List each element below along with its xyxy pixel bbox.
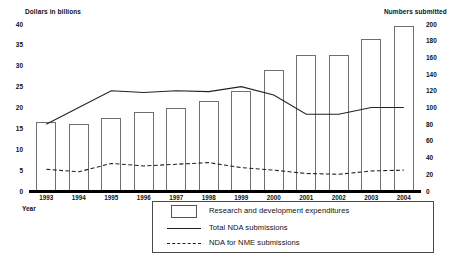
- left-axis-tick-40: 40: [7, 21, 23, 28]
- right-axis-tick-40: 40: [426, 154, 442, 161]
- left-axis-tick-5: 5: [7, 167, 23, 174]
- right-axis-tick-160: 160: [426, 54, 442, 61]
- left-axis-title: Dollars in billions: [25, 8, 81, 15]
- left-axis-tick-35: 35: [7, 41, 23, 48]
- right-axis-tick-60: 60: [426, 137, 442, 144]
- right-axis-tick-80: 80: [426, 121, 442, 128]
- solid-line-icon: [167, 221, 203, 237]
- x-axis-year-1995: 1995: [96, 194, 126, 201]
- left-axis-tick-30: 30: [7, 62, 23, 69]
- line-nda-for-nme-submissions: [46, 163, 404, 175]
- x-axis-year-2002: 2002: [324, 194, 354, 201]
- right-axis-title: Numbers submitted: [384, 8, 447, 15]
- legend-item-label: Total NDA submissions: [209, 223, 288, 232]
- line-total-nda-submissions: [46, 87, 404, 125]
- legend-item-nda-for-nme-submissions: NDA for NME submissions: [153, 236, 435, 252]
- legend-item-label: NDA for NME submissions: [209, 238, 300, 247]
- x-axis-caption: Year: [22, 205, 36, 212]
- dashed-line-icon: [167, 236, 203, 252]
- right-axis-tick-20: 20: [426, 171, 442, 178]
- left-axis-tick-20: 20: [7, 104, 23, 111]
- left-axis-tick-0: 0: [7, 188, 23, 195]
- x-axis-year-2004: 2004: [389, 194, 419, 201]
- x-axis-year-1993: 1993: [31, 194, 61, 201]
- x-axis-year-1994: 1994: [64, 194, 94, 201]
- x-axis-year-1996: 1996: [129, 194, 159, 201]
- x-axis-year-1999: 1999: [226, 194, 256, 201]
- legend-item-research-and-development-expenditures: Research and development expenditures: [153, 204, 435, 220]
- plot-area: [30, 24, 420, 191]
- x-axis-year-1997: 1997: [161, 194, 191, 201]
- legend-item-total-nda-submissions: Total NDA submissions: [153, 221, 435, 237]
- chart-figure: Dollars in billions Numbers submitted 40…: [0, 0, 452, 255]
- chart-legend: Research and development expenditures To…: [152, 201, 434, 253]
- right-axis-tick-100: 100: [426, 104, 442, 111]
- x-axis-year-2000: 2000: [259, 194, 289, 201]
- right-axis-tick-120: 120: [426, 87, 442, 94]
- line-series-layer: [30, 24, 420, 191]
- left-axis-tick-15: 15: [7, 125, 23, 132]
- right-axis-tick-0: 0: [426, 188, 442, 195]
- x-axis-baseline: [29, 190, 421, 193]
- right-axis-tick-180: 180: [426, 37, 442, 44]
- left-axis-tick-10: 10: [7, 146, 23, 153]
- legend-item-label: Research and development expenditures: [209, 206, 349, 215]
- x-axis-year-1998: 1998: [194, 194, 224, 201]
- right-axis-tick-140: 140: [426, 71, 442, 78]
- left-axis-tick-25: 25: [7, 83, 23, 90]
- bar-swatch-icon: [167, 204, 203, 220]
- x-axis-year-2001: 2001: [291, 194, 321, 201]
- right-axis-tick-200: 200: [426, 21, 442, 28]
- x-axis-year-2003: 2003: [356, 194, 386, 201]
